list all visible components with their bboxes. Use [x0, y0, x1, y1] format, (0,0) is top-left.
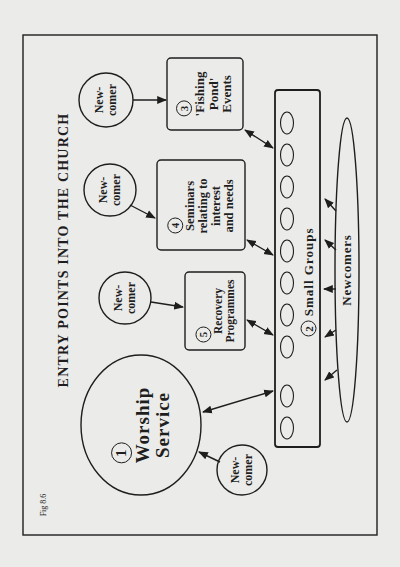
newcomers-label: Newcomers: [340, 234, 354, 305]
node-number-3: 3: [176, 100, 192, 116]
figure-label: Fig 8.6: [40, 494, 48, 517]
node-number-5: 5: [195, 327, 211, 343]
newcomer-label-2: New- comer: [97, 174, 122, 206]
worship-label: 1 Worship Service: [111, 387, 173, 464]
figure-page: Fig 8.6 ENTRY POINTS INTO THE CHURCH 1 W…: [0, 0, 400, 567]
figure-title: ENTRY POINTS INTO THE CHURCH: [57, 113, 72, 388]
small-group-circles: [281, 112, 294, 439]
seminars-label: 4 Seminars relating to interest and need…: [167, 179, 237, 234]
newcomer-label-3: New- comer: [112, 282, 137, 314]
newcomer-label-4: New- comer: [229, 454, 254, 486]
fishing-pond-label: 3 'Fishing Pond' Events: [176, 72, 234, 117]
node-number-2: 2: [301, 320, 317, 336]
node-number-1: 1: [111, 442, 132, 463]
newcomer-label-1: New- comer: [93, 84, 118, 116]
node-number-4: 4: [167, 217, 183, 233]
recovery-label: 5 Recovery Programmes: [195, 279, 236, 342]
small-groups-label: 2 Small Groups: [301, 228, 318, 337]
